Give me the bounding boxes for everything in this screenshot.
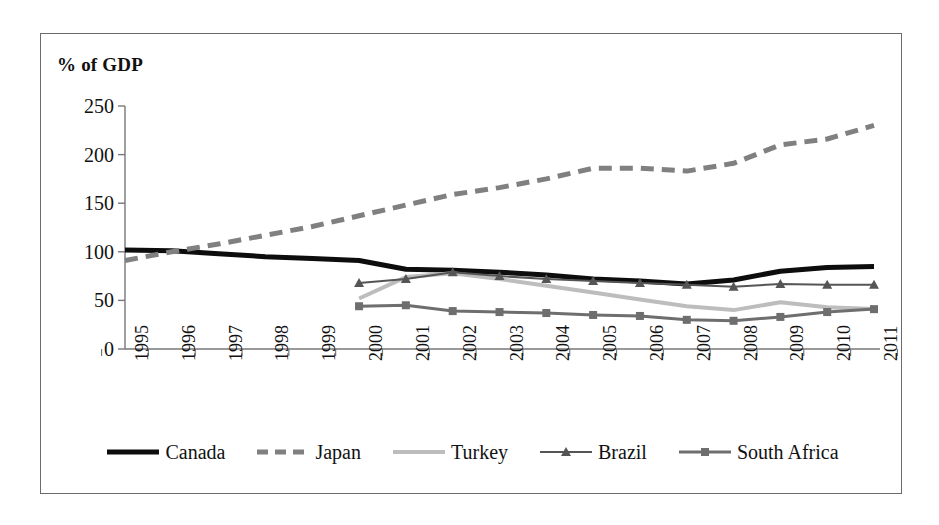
y-axis-tick-label: 100 [62, 240, 114, 263]
series-marker-south-africa [870, 305, 878, 313]
series-marker-south-africa [823, 308, 831, 316]
legend-item-south-africa[interactable]: South Africa [677, 441, 839, 464]
y-axis-tick-label: 0 [62, 338, 114, 361]
y-axis-tick-label: 150 [62, 192, 114, 215]
legend-swatch-icon [391, 443, 447, 461]
series-line-south-africa [359, 305, 874, 321]
x-axis-tick-label: 2011 [881, 326, 902, 361]
y-axis-tick-label: 250 [62, 95, 114, 118]
legend-swatch-icon [538, 443, 594, 461]
x-axis-tick-label: 2008 [741, 325, 762, 361]
x-axis-tick-label: 1997 [226, 325, 247, 361]
x-axis-tick-label: 1999 [319, 325, 340, 361]
y-axis-tick-label: 50 [62, 289, 114, 312]
chart-svg [41, 34, 903, 495]
plot-area: 050100150200250 199519961997199819992000… [41, 34, 903, 495]
legend-item-canada[interactable]: Canada [105, 441, 225, 464]
x-axis-tick-label: 1995 [132, 325, 153, 361]
legend-swatch-icon [255, 443, 311, 461]
series-marker-south-africa [355, 302, 363, 310]
series-marker-south-africa [402, 301, 410, 309]
series-line-japan [125, 125, 874, 260]
legend-item-brazil[interactable]: Brazil [538, 441, 647, 464]
legend-item-turkey[interactable]: Turkey [391, 441, 508, 464]
x-axis-tick-label: 1998 [272, 325, 293, 361]
series-marker-south-africa [636, 312, 644, 320]
chart-figure: % of GDP 050100150200250 199519961997199… [40, 33, 902, 494]
series-marker-south-africa [496, 308, 504, 316]
series-marker-south-africa [730, 317, 738, 325]
series-marker-south-africa [542, 309, 550, 317]
series-marker-south-africa [589, 311, 597, 319]
legend-label: Canada [165, 441, 225, 464]
legend-swatch-icon [105, 443, 161, 461]
x-axis-tick-label: 2010 [834, 325, 855, 361]
series-marker-south-africa [683, 316, 691, 324]
series-marker-south-africa [776, 313, 784, 321]
legend-label: Turkey [451, 441, 508, 464]
x-axis-tick-label: 2004 [553, 325, 574, 361]
legend-label: South Africa [737, 441, 839, 464]
y-axis-tick-label: 200 [62, 143, 114, 166]
legend-label: Brazil [598, 441, 647, 464]
x-axis-tick-label: 2009 [787, 325, 808, 361]
x-axis-tick-label: 2007 [694, 325, 715, 361]
x-axis-tick-label: 2002 [460, 325, 481, 361]
series-marker-south-africa [449, 307, 457, 315]
x-axis-tick-label: 2005 [600, 325, 621, 361]
x-axis-tick-label: 1996 [179, 325, 200, 361]
legend-swatch-icon [677, 443, 733, 461]
x-axis-tick-label: 2000 [366, 325, 387, 361]
legend-label: Japan [315, 441, 361, 464]
legend-item-japan[interactable]: Japan [255, 441, 361, 464]
x-axis-tick-label: 2001 [413, 325, 434, 361]
x-axis-tick-label: 2006 [647, 325, 668, 361]
chart-legend: CanadaJapanTurkeyBrazilSouth Africa [41, 429, 903, 475]
x-axis-tick-label: 2003 [507, 325, 528, 361]
